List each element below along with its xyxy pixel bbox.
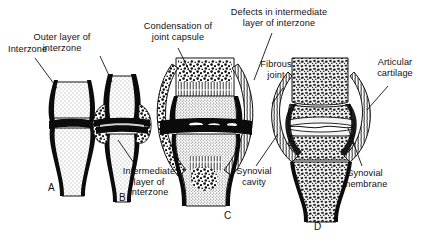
panel-letter-a: A	[48, 183, 55, 193]
panel-letter-d: D	[314, 222, 321, 232]
label-synovial-membrane: Synovial membrane	[334, 168, 396, 189]
label-fibrous-joint: Fibrous joint	[251, 59, 301, 80]
panel-letter-c: C	[224, 211, 231, 221]
label-articular-cartilage: Articular cartilage	[368, 57, 422, 78]
label-defects: Defects in intermediate layer of interzo…	[218, 7, 340, 28]
label-condensation: Condensation of joint capsule	[130, 21, 226, 42]
label-outer-layer: Outer layer of interzone	[12, 32, 112, 53]
label-synovial-cavity: Synovial cavity	[230, 166, 278, 187]
panel-letter-b: B	[119, 193, 126, 203]
